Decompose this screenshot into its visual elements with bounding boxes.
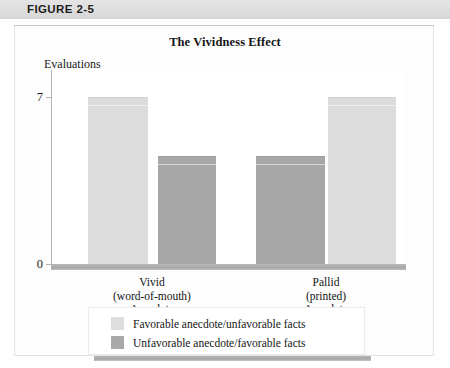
bar-vivid-unfavorable: [158, 156, 216, 264]
figure-panel: The Vividness Effect Evaluations 7 0: [14, 26, 434, 356]
x-category-line: Vivid: [92, 276, 212, 290]
legend-swatch-icon: [111, 336, 124, 349]
bar-highlight: [328, 105, 396, 106]
legend-shadow-bar: [94, 356, 371, 361]
bar-pallid-unfavorable: [256, 156, 325, 264]
legend-item-unfavorable: Unfavorable anecdote/favorable facts: [111, 334, 364, 351]
x-category-line: (printed): [266, 290, 386, 304]
chart-legend: Favorable anecdote/unfavorable facts Unf…: [88, 307, 365, 355]
x-category-line: Pallid: [266, 276, 386, 290]
y-tick-label: 0: [37, 258, 43, 271]
legend-item-favorable: Favorable anecdote/unfavorable facts: [111, 315, 364, 332]
bar-highlight: [256, 164, 325, 165]
figure-label: FIGURE 2-5: [27, 3, 94, 15]
y-tick-mark: [46, 97, 51, 98]
legend-item-label: Unfavorable anecdote/favorable facts: [133, 337, 305, 349]
legend-swatch-icon: [111, 317, 124, 330]
chart-title: The Vividness Effect: [15, 35, 435, 50]
bar-highlight: [88, 105, 148, 106]
bar-pallid-favorable: [328, 97, 396, 264]
legend-item-label: Favorable anecdote/unfavorable facts: [133, 318, 305, 330]
bar-vivid-favorable: [88, 97, 148, 264]
plot-area: 7 0 Vivid (word-of-mouth) Anecdote Palli…: [51, 70, 423, 264]
y-tick-label: 7: [37, 91, 43, 104]
bar-highlight: [158, 164, 216, 165]
x-axis-line: [51, 264, 406, 270]
y-tick-mark: [46, 264, 51, 265]
x-category-line: (word-of-mouth): [92, 290, 212, 304]
y-axis-line: [51, 70, 52, 264]
